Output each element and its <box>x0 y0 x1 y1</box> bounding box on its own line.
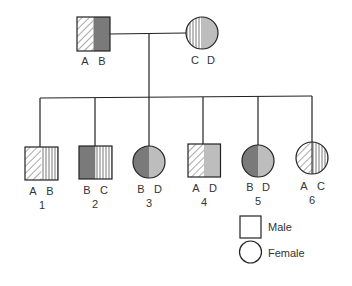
legend: Male Female <box>240 216 305 263</box>
child-2-allele-2: C <box>100 184 108 196</box>
child-4-allele-1: A <box>192 182 200 194</box>
legend-male-square-icon <box>240 216 261 238</box>
legend-female-label: Female <box>268 247 305 259</box>
child-3-allele-2: D <box>154 183 162 195</box>
child-5-symbol: B D 5 <box>242 145 274 207</box>
child-1-number: 1 <box>39 199 45 211</box>
child-4-number: 4 <box>201 196 207 208</box>
child-4-allele-2: D <box>209 182 217 194</box>
mother-allele-1: C <box>191 54 199 66</box>
legend-female-circle-icon <box>240 241 262 263</box>
pedigree-diagram: A B C D A B 1 B C 2 B D <box>0 0 352 286</box>
child-6-allele-2: C <box>317 180 325 192</box>
father-symbol: A B <box>77 17 110 67</box>
child-6-number: 6 <box>309 194 315 206</box>
child-6-symbol: A C 6 <box>296 142 328 206</box>
father-allele-2: B <box>98 55 105 67</box>
legend-male-label: Male <box>268 221 292 233</box>
child-2-allele-1: B <box>83 184 90 196</box>
mother-allele-2: D <box>207 54 215 66</box>
child-1-allele-2: B <box>46 185 53 197</box>
child-2-symbol: B C 2 <box>79 146 112 210</box>
sibship-line <box>40 96 312 98</box>
child-1-symbol: A B 1 <box>25 147 58 211</box>
mother-symbol: C D <box>186 17 218 66</box>
child-3-symbol: B D 3 <box>133 146 165 209</box>
child-5-number: 5 <box>255 195 261 207</box>
child-4-symbol: A D 4 <box>188 144 221 208</box>
child-2-number: 2 <box>92 198 98 210</box>
child-3-allele-1: B <box>137 183 144 195</box>
child-5-allele-2: D <box>262 181 270 193</box>
child-1-allele-1: A <box>29 185 37 197</box>
child-5-allele-1: B <box>246 181 253 193</box>
child-3-number: 3 <box>146 197 152 209</box>
child-6-allele-1: A <box>300 180 308 192</box>
marriage-line <box>110 33 186 34</box>
father-allele-1: A <box>81 55 89 67</box>
